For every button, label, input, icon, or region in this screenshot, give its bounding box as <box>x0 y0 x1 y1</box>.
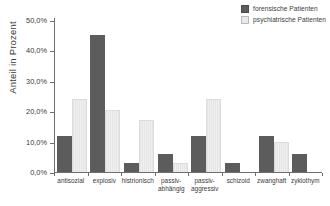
bar-psychiatric <box>105 110 120 172</box>
x-category-label: schizoid <box>222 177 256 185</box>
bar-psychiatric <box>173 163 188 172</box>
x-category-label: passiv-abhängig <box>155 177 189 193</box>
x-category-label-line1: antisozial <box>57 177 84 184</box>
x-category-label: explosiv <box>88 177 122 185</box>
x-tick-mark <box>222 173 223 176</box>
bar-psychiatric <box>274 142 289 172</box>
bar-group <box>257 20 291 172</box>
bar-forensic <box>191 136 206 172</box>
y-tick-label: 40,0% <box>26 46 47 55</box>
x-category-label-line1: zyklothym <box>291 177 320 184</box>
x-tick-mark <box>289 173 290 176</box>
x-category-label-line1: zwanghaft <box>257 177 286 184</box>
x-category-label-line2: aggressiv <box>188 185 222 193</box>
y-tick-label: 10,0% <box>26 138 47 147</box>
legend-item-forensic: forensische Patienten <box>241 4 326 13</box>
x-category-label-line1: passiv- <box>195 177 215 184</box>
x-axis-categories: antisozialexplosivhistrionischpassiv-abh… <box>54 173 324 206</box>
bar-group <box>55 20 89 172</box>
x-category-label: passiv-aggressiv <box>188 177 222 193</box>
x-category-label-line1: schizoid <box>227 177 250 184</box>
plot-area: 0,0%10,0%20,0%30,0%40,0%50,0% <box>54 21 324 173</box>
x-category-label-line1: passiv- <box>161 177 181 184</box>
bar-groups <box>55 20 324 172</box>
y-tick-label: 20,0% <box>26 107 47 116</box>
bar-group <box>156 20 190 172</box>
x-tick-mark <box>155 173 156 176</box>
y-tick-mark: 40,0% <box>50 51 54 52</box>
x-category-label: histrionisch <box>121 177 155 185</box>
x-tick-mark <box>121 173 122 176</box>
x-category-label: antisozial <box>54 177 88 185</box>
bar-forensic <box>259 136 274 172</box>
bar-forensic <box>292 154 307 172</box>
x-tick-mark <box>255 173 256 176</box>
y-tick-mark: 30,0% <box>50 82 54 83</box>
bar-group <box>122 20 156 172</box>
x-tick-mark <box>188 173 189 176</box>
y-axis-title: Anteil in Prozent <box>7 0 18 118</box>
y-tick-label: 0,0% <box>30 168 47 177</box>
x-tick-mark <box>54 173 55 176</box>
legend-swatch-forensic <box>241 5 249 13</box>
bar-group <box>223 20 257 172</box>
y-tick-mark: 50,0% <box>50 21 54 22</box>
y-tick-mark: 20,0% <box>50 112 54 113</box>
x-tick-mark <box>88 173 89 176</box>
bar-forensic <box>90 35 105 172</box>
y-tick-label: 30,0% <box>26 77 47 86</box>
x-category-label-line1: histrionisch <box>122 177 154 184</box>
bar-forensic <box>124 163 139 172</box>
bar-forensic <box>57 136 72 172</box>
bar-psychiatric <box>72 99 87 172</box>
bar-forensic <box>158 154 173 172</box>
bar-group <box>290 20 324 172</box>
x-category-label-line2: abhängig <box>155 185 189 193</box>
bar-psychiatric <box>206 99 221 172</box>
x-category-label-line1: explosiv <box>93 177 116 184</box>
x-category-label: zwanghaft <box>255 177 289 185</box>
bar-forensic <box>225 163 240 172</box>
legend-label-forensic: forensische Patienten <box>253 4 318 13</box>
bar-psychiatric <box>139 120 154 172</box>
y-tick-label: 50,0% <box>26 16 47 25</box>
bar-group <box>190 20 224 172</box>
bar-group <box>89 20 123 172</box>
y-tick-mark: 10,0% <box>50 143 54 144</box>
x-category-label: zyklothym <box>289 177 323 185</box>
x-tick-mark <box>322 173 323 176</box>
